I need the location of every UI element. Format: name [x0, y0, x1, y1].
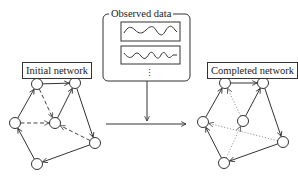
node-C [10, 118, 21, 129]
edge-B-E [77, 88, 93, 137]
initial-network-label: Initial network [22, 62, 92, 79]
ellipsis-icon: ⋮ [145, 68, 154, 78]
edge-F-C [206, 127, 222, 158]
node-B [70, 78, 81, 89]
node-A [32, 79, 43, 90]
node-D [238, 116, 249, 127]
node-D [50, 118, 61, 129]
time-series-wave-2 [124, 52, 177, 58]
edge-A-B [42, 83, 69, 84]
completed-network-label: Completed network [207, 62, 298, 79]
node-F [32, 159, 43, 170]
node-E [90, 138, 101, 149]
edge-F-C [18, 128, 35, 159]
time-series-box-2 [121, 46, 180, 64]
edge-D-B [246, 88, 261, 116]
time-series-wave-1 [124, 26, 177, 35]
node-A [220, 78, 231, 89]
edge-B-E [265, 88, 281, 136]
node-C [198, 117, 209, 128]
edge-E-F [230, 144, 278, 161]
edge-C-A [206, 88, 222, 117]
edge-E-F [43, 145, 90, 162]
edge-A-D [39, 89, 52, 118]
node-E [278, 137, 289, 148]
edge-D-A [228, 88, 241, 116]
edge-E-D [60, 126, 90, 141]
node-B [258, 78, 269, 89]
observed-data-title: Observed data [109, 8, 173, 20]
observed-data-panel: ⋮ [103, 14, 190, 121]
edge-C-A [18, 89, 34, 118]
edge-F-D [226, 126, 240, 158]
node-F [219, 158, 230, 169]
edge-D-B [57, 88, 72, 118]
time-series-box-1 [121, 22, 180, 41]
network-completion-diagram: ⋮ [0, 0, 298, 177]
initial-network-graph [10, 78, 101, 170]
completed-network-graph [198, 78, 289, 169]
